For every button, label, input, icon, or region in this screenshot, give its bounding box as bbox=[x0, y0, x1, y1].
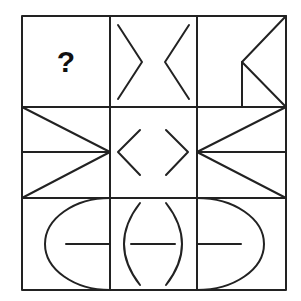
cell-r1c1-outward-chevrons bbox=[118, 130, 188, 175]
cell-r0c1-inward-chevrons bbox=[118, 25, 189, 99]
chevron-right-icon bbox=[166, 130, 188, 175]
cell-r0c2-wedge bbox=[242, 16, 286, 107]
missing-cell-question-mark: ? bbox=[22, 16, 110, 107]
chevron-left-icon bbox=[118, 130, 140, 175]
cell-r1c2-triangle bbox=[197, 107, 286, 198]
chevron-left-icon bbox=[165, 25, 189, 99]
wedge-lines bbox=[242, 16, 286, 107]
cell-r2c2-half-ellipse bbox=[197, 198, 264, 290]
cell-r2c0-half-ellipse bbox=[45, 198, 110, 290]
cell-r1c0-triangle bbox=[22, 107, 110, 198]
puzzle-grid: ? bbox=[0, 0, 301, 301]
chevron-right-icon bbox=[118, 25, 142, 99]
cell-r2c1-parentheses bbox=[124, 203, 182, 285]
